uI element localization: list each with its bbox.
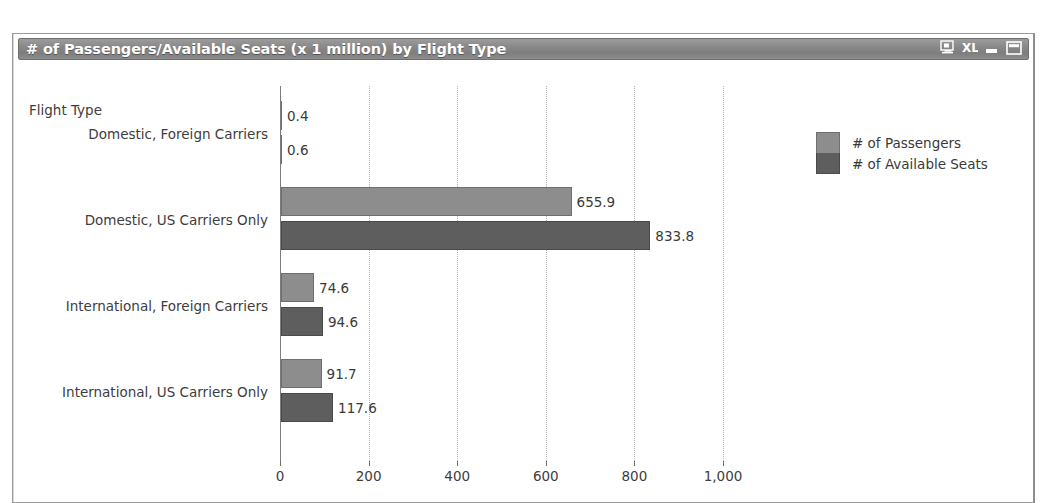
category-label: Domestic, Foreign Carriers: [88, 126, 268, 142]
bar-value-label: 74.6: [319, 280, 349, 296]
bar-group: International, US Carriers Only91.7117.6: [280, 349, 768, 435]
bar-passengers[interactable]: [281, 359, 322, 388]
bar-seats[interactable]: [281, 307, 323, 336]
category-label: International, US Carriers Only: [62, 384, 268, 400]
bar-group: International, Foreign Carriers74.694.6: [280, 263, 768, 349]
legend-swatch-passengers: [816, 132, 840, 153]
svg-text:XL: XL: [962, 41, 978, 55]
category-label: International, Foreign Carriers: [66, 298, 268, 314]
bar-item[interactable]: 94.6: [281, 307, 358, 336]
bar-value-label: 117.6: [338, 400, 377, 416]
maximize-button[interactable]: [1006, 40, 1022, 59]
x-tick-mark: [369, 461, 370, 466]
chart-legend: # of Passengers # of Available Seats: [816, 132, 988, 174]
bar-seats[interactable]: [281, 221, 650, 250]
bar-item[interactable]: 833.8: [281, 221, 694, 250]
x-tick-label: 400: [444, 468, 470, 484]
x-tick-mark: [280, 461, 281, 466]
bar-value-label: 0.4: [287, 108, 308, 124]
legend-label-available-seats: # of Available Seats: [852, 156, 988, 172]
chart-window: # of Passengers/Available Seats (x 1 mil…: [12, 33, 1035, 503]
bar-value-label: 833.8: [655, 228, 694, 244]
bar-seats[interactable]: [281, 135, 282, 164]
excel-export-icon[interactable]: XL: [962, 40, 978, 59]
minimize-button[interactable]: [985, 40, 999, 59]
y-axis-title: Flight Type: [29, 102, 102, 118]
x-tick-label: 800: [622, 468, 648, 484]
bar-item[interactable]: 0.4: [281, 101, 308, 130]
bar-value-label: 94.6: [328, 314, 358, 330]
legend-label-passengers: # of Passengers: [852, 135, 961, 151]
category-label: Domestic, US Carriers Only: [85, 212, 268, 228]
legend-item-passengers[interactable]: # of Passengers: [816, 132, 988, 153]
display-icon[interactable]: [940, 40, 955, 59]
window-controls: XL: [940, 40, 1022, 59]
plot-area: Domestic, Foreign Carriers0.40.6Domestic…: [280, 86, 768, 461]
bar-group: Domestic, Foreign Carriers0.40.6: [280, 91, 768, 177]
window-title-bar[interactable]: # of Passengers/Available Seats (x 1 mil…: [18, 38, 1029, 60]
legend-item-available-seats[interactable]: # of Available Seats: [816, 153, 988, 174]
bar-item[interactable]: 74.6: [281, 273, 349, 302]
bar-item[interactable]: 91.7: [281, 359, 357, 388]
x-tick-mark: [634, 461, 635, 466]
bar-item[interactable]: 117.6: [281, 393, 377, 422]
bar-seats[interactable]: [281, 393, 333, 422]
bar-passengers[interactable]: [281, 187, 572, 216]
x-tick-label: 200: [356, 468, 382, 484]
bar-value-label: 655.9: [577, 194, 616, 210]
x-axis: 02004006008001,000: [280, 461, 768, 491]
bar-group: Domestic, US Carriers Only655.9833.8: [280, 177, 768, 263]
x-tick-label: 0: [276, 468, 285, 484]
bar-value-label: 91.7: [327, 366, 357, 382]
bar-value-label: 0.6: [287, 142, 308, 158]
page-title: # of Passengers/Available Seats (x 1 mil…: [26, 41, 506, 57]
x-tick-mark: [723, 461, 724, 466]
x-tick-label: 1,000: [704, 468, 743, 484]
x-tick-mark: [546, 461, 547, 466]
bar-passengers[interactable]: [281, 273, 314, 302]
legend-swatch-available-seats: [816, 153, 840, 174]
bar-item[interactable]: 0.6: [281, 135, 308, 164]
x-tick-label: 600: [533, 468, 559, 484]
bar-item[interactable]: 655.9: [281, 187, 615, 216]
x-tick-mark: [457, 461, 458, 466]
bar-passengers[interactable]: [281, 101, 282, 130]
